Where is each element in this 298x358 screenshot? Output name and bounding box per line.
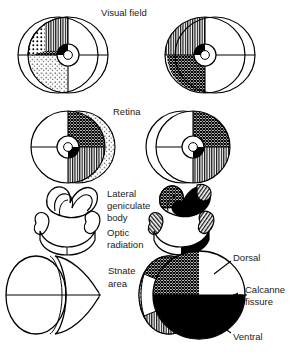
dorsal-label: Dorsal (233, 252, 260, 263)
left-occipital-lobe (6, 256, 101, 334)
left-lgb-body (47, 187, 98, 218)
right-or-medial-horn (198, 211, 214, 233)
row-visual-field: Visual field (18, 7, 255, 93)
retina-title: Retina (113, 106, 141, 117)
right-visual-field (165, 17, 255, 93)
striate-area-label-line1: Stnate (108, 265, 135, 276)
lgb-label-line3: body (107, 212, 128, 223)
row-lateral-geniculate-body: Lateral geniculate body (47, 184, 211, 222)
lgb-label-line2: geniculate (107, 200, 150, 211)
right-retina-fovea-center (189, 143, 198, 152)
left-visual-field (18, 17, 110, 93)
left-lgb-lamina-2 (72, 195, 92, 211)
right-lgb-cap (197, 184, 211, 201)
row-retina: Retina (31, 106, 233, 183)
right-retina (146, 111, 233, 183)
optic-radiation-label-line2: radiation (107, 239, 143, 250)
visual-field-title: Visual field (101, 7, 147, 18)
left-retina (31, 111, 115, 183)
left-lgb-lamina-3 (59, 200, 68, 216)
optic-radiation-label-line1: Optic (107, 227, 129, 238)
right-occipital-lobe (139, 251, 247, 339)
ventral-label: Ventral (233, 331, 263, 342)
calcarine-fissure-label-line2: fissure (245, 296, 273, 307)
calcarine-fissure-label-line1: Calcanne (245, 284, 285, 295)
left-retina-fovea-center (64, 143, 73, 152)
right-vf-fovea-center (201, 51, 210, 60)
lgb-label-line1: Lateral (107, 188, 136, 199)
left-lateral-geniculate-body (47, 187, 98, 218)
left-vf-fovea-center (64, 51, 73, 60)
row-striate-area: Stnate area Dorsal Ca (6, 251, 285, 342)
left-or-lateral-horn (34, 213, 49, 235)
striate-area-label-line2: area (108, 278, 128, 289)
right-or-lateral-horn (148, 213, 163, 235)
visual-pathway-figure: Visual field (0, 0, 298, 358)
left-or-medial-horn (84, 211, 100, 233)
right-optic-radiation (148, 211, 214, 255)
figure-canvas: Visual field (0, 0, 298, 358)
